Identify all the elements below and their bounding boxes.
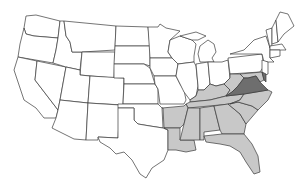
state-pennsylvania[interactable] (228, 54, 264, 74)
state-wyoming[interactable] (80, 52, 115, 78)
state-iowa[interactable] (150, 58, 178, 76)
us-map (0, 0, 303, 191)
state-florida[interactable] (204, 134, 260, 174)
state-massachusetts[interactable] (270, 44, 286, 50)
state-colorado[interactable] (88, 76, 124, 105)
state-montana[interactable] (64, 21, 116, 52)
state-north-dakota[interactable] (115, 26, 150, 46)
state-south-dakota[interactable] (114, 46, 150, 66)
state-new-mexico[interactable] (86, 103, 120, 140)
state-connecticut[interactable] (270, 50, 280, 58)
state-maine[interactable] (276, 12, 294, 42)
state-kansas[interactable] (123, 84, 158, 104)
